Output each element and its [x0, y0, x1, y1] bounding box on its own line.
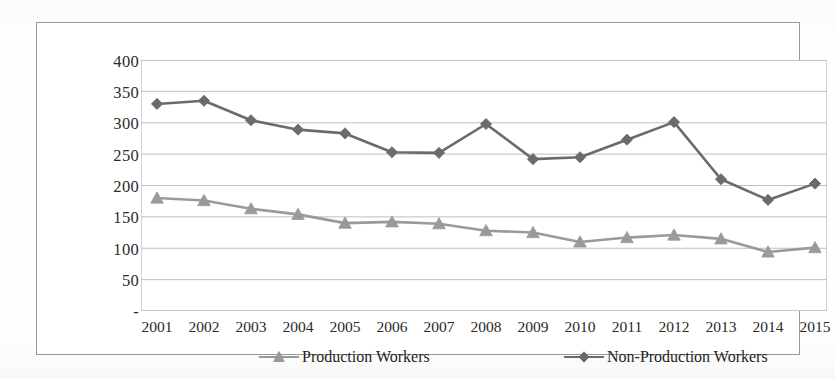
legend-item-non-production-workers[interactable]: Non-Production Workers [562, 349, 768, 365]
plot-area [141, 60, 827, 311]
x-tick-2008: 2008 [471, 319, 502, 335]
x-tick-2015: 2015 [800, 319, 831, 335]
x-tick-2012: 2012 [659, 319, 690, 335]
plot-canvas [141, 60, 827, 311]
y-tick-50: 50 [81, 273, 139, 290]
chart-frame-border: 400 350 300 250 200 150 100 50 - 2001 20… [36, 22, 800, 355]
x-tick-2007: 2007 [424, 319, 455, 335]
x-tick-2014: 2014 [753, 319, 784, 335]
x-tick-2005: 2005 [330, 319, 361, 335]
diamond-marker-icon [562, 349, 606, 365]
y-axis-tick-labels: 400 350 300 250 200 150 100 50 - [81, 45, 139, 325]
x-tick-2010: 2010 [565, 319, 596, 335]
x-tick-2009: 2009 [518, 319, 549, 335]
x-tick-2002: 2002 [189, 319, 220, 335]
chart-figure: 400 350 300 250 200 150 100 50 - 2001 20… [0, 0, 835, 379]
x-tick-2004: 2004 [283, 319, 314, 335]
y-tick-300: 300 [81, 116, 139, 133]
x-tick-2003: 2003 [236, 319, 267, 335]
x-tick-2011: 2011 [612, 319, 642, 335]
y-tick-150: 150 [81, 210, 139, 227]
legend-label-production-workers: Production Workers [301, 349, 430, 365]
y-tick-100: 100 [81, 242, 139, 259]
x-tick-2013: 2013 [706, 319, 737, 335]
x-tick-2006: 2006 [377, 319, 408, 335]
y-tick-200: 200 [81, 179, 139, 196]
legend-item-production-workers[interactable]: Production Workers [257, 349, 430, 365]
legend-label-non-production-workers: Non-Production Workers [606, 349, 768, 365]
triangle-marker-icon [257, 349, 301, 365]
y-tick-350: 350 [81, 85, 139, 102]
chart-legend: Production Workers Non-Production Worker… [73, 349, 835, 375]
y-tick-zero-dash: - [81, 304, 139, 321]
y-tick-250: 250 [81, 148, 139, 165]
y-tick-400: 400 [81, 54, 139, 71]
x-axis-tick-labels: 2001 2002 2003 2004 2005 2006 2007 2008 … [141, 319, 827, 341]
x-tick-2001: 2001 [142, 319, 173, 335]
